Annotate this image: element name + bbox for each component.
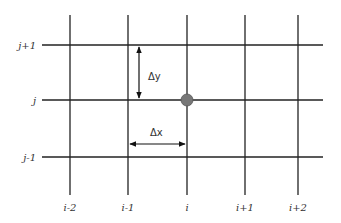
grid-svg: Δy Δx j+1 j j-1 i-2 i-1 i i+1 i+2 [0, 0, 341, 223]
col-label-i+2: i+2 [289, 202, 307, 213]
delta-y-label: Δy [148, 71, 161, 82]
finite-difference-grid-diagram: Δy Δx j+1 j j-1 i-2 i-1 i i+1 i+2 [0, 0, 341, 223]
col-label-i: i [185, 202, 188, 213]
row-label-j-1: j-1 [21, 152, 36, 163]
row-label-j: j [31, 95, 36, 106]
delta-x-label: Δx [150, 127, 163, 138]
row-label-j+1: j+1 [16, 40, 36, 51]
col-label-i-1: i-1 [122, 202, 135, 213]
col-label-i-2: i-2 [64, 202, 77, 213]
col-label-i+1: i+1 [236, 202, 254, 213]
grid-node-i-j [181, 94, 193, 106]
